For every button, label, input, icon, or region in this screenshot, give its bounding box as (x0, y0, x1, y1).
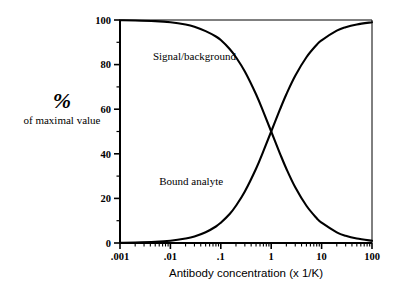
x-tick-label: 1 (269, 251, 274, 262)
x-tick-label: .1 (217, 251, 225, 262)
y-tick-label: 60 (101, 104, 112, 115)
y-tick-label: 0 (106, 238, 111, 249)
x-tick-label: .001 (111, 251, 129, 262)
y-axis-title-percent: % (53, 88, 71, 113)
x-axis-title: Antibody concentration (x 1/K) (169, 267, 323, 279)
y-axis-title-subtext: of maximal value (24, 114, 101, 126)
y-tick-label: 40 (101, 149, 112, 160)
x-tick-label: 100 (364, 251, 380, 262)
chart-svg: 020406080100 .001.01.1110100 Signal/back… (0, 0, 405, 299)
x-tick-label: .01 (164, 251, 177, 262)
y-tick-label: 80 (101, 59, 112, 70)
chart-figure: 020406080100 .001.01.1110100 Signal/back… (0, 0, 405, 299)
x-tick-label: 10 (316, 251, 327, 262)
y-tick-label: 100 (95, 15, 111, 26)
annotation-label-1: Bound analyte (159, 175, 223, 187)
y-tick-label: 20 (101, 193, 112, 204)
annotation-label-0: Signal/background (153, 50, 237, 62)
chart-background (0, 0, 405, 299)
